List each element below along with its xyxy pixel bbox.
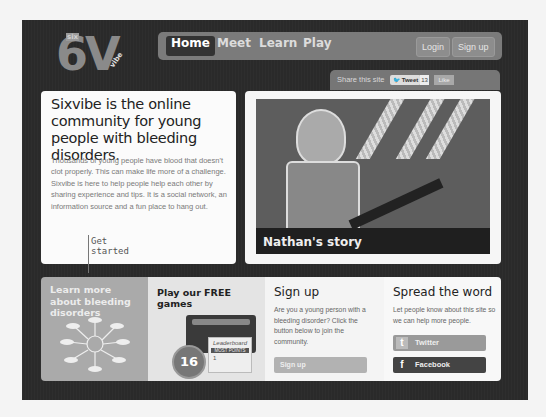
login-button[interactable]: Login: [416, 37, 450, 57]
leaderboard-card: Leaderboard MOST POINTS 1: [208, 337, 252, 373]
nathan-story-image[interactable]: Nathan's story: [256, 99, 490, 254]
twitter-label: Twitter: [415, 338, 439, 347]
spread-panel: Spread the word Let people know about th…: [384, 277, 501, 381]
logo-six-text: six: [66, 33, 79, 41]
facebook-icon: f: [396, 359, 408, 371]
story-caption[interactable]: Nathan's story: [263, 235, 362, 249]
nav-learn[interactable]: Learn: [254, 36, 302, 56]
guitar-icon: [349, 178, 444, 229]
main-nav: Home Meet Learn Play Login Sign up: [158, 32, 502, 60]
signup-panel: Sign up Are you a young person with a bl…: [265, 277, 384, 381]
share-bar: Share this site 🐦 Tweet 13 Like: [330, 70, 500, 90]
spread-body: Let people know about this site so we ca…: [393, 305, 497, 326]
twitter-button[interactable]: t Twitter: [393, 335, 486, 351]
sixvibe-logo[interactable]: 6V six vibe: [56, 32, 134, 76]
learn-panel[interactable]: Learn more about bleeding disorders: [41, 277, 148, 381]
nav-play[interactable]: Play: [298, 36, 336, 56]
mind-map-icon: [59, 315, 131, 373]
twitter-bird-icon: 🐦: [393, 77, 400, 83]
signup-nav-button[interactable]: Sign up: [452, 37, 495, 57]
feature-panels: Learn more about bleeding disorders Play…: [41, 277, 501, 381]
nav-home[interactable]: Home: [166, 36, 215, 56]
tweet-label: Tweet: [402, 77, 419, 83]
leaderboard-title: Leaderboard: [209, 338, 251, 346]
leaderboard-sub: MOST POINTS: [211, 348, 249, 353]
twitter-icon: t: [396, 337, 408, 349]
story-card[interactable]: Nathan's story: [245, 91, 501, 264]
spread-title: Spread the word: [393, 285, 492, 299]
facebook-label: Facebook: [415, 360, 450, 369]
leaderboard-rank: 1: [209, 355, 251, 361]
games-panel[interactable]: Play our FREE games Leaderboard MOST POI…: [148, 277, 265, 381]
facebook-button[interactable]: f Facebook: [393, 357, 486, 373]
signup-button[interactable]: Sign up: [274, 357, 367, 373]
intro-card: Sixvibe is the online community for youn…: [41, 91, 236, 264]
intro-body: Thousands of young people have blood tha…: [51, 155, 231, 212]
tweet-button[interactable]: 🐦 Tweet: [390, 75, 421, 85]
signup-body: Are you a young person with a bleeding d…: [274, 305, 378, 347]
down-arrow-icon: [88, 235, 89, 273]
tweet-count: 13: [420, 75, 429, 85]
nathan-illustration: [296, 109, 346, 165]
learn-title[interactable]: Learn more about bleeding disorders: [50, 284, 145, 319]
games-title[interactable]: Play our FREE games: [157, 287, 265, 309]
nav-meet[interactable]: Meet: [212, 36, 256, 56]
level-badge: 16: [172, 345, 206, 379]
share-label: Share this site: [337, 75, 385, 84]
amp-knobs: [192, 319, 250, 325]
signup-title: Sign up: [274, 285, 319, 299]
like-button[interactable]: Like: [434, 75, 454, 85]
get-started-label[interactable]: Get started: [91, 236, 131, 256]
intro-headline: Sixvibe is the online community for youn…: [51, 96, 236, 164]
